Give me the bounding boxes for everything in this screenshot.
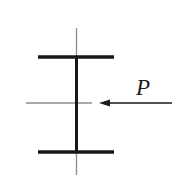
figure-canvas: P bbox=[0, 0, 181, 185]
force-label-P: P bbox=[135, 75, 150, 100]
figure-background bbox=[0, 0, 181, 185]
i-beam-load-diagram: P bbox=[0, 0, 181, 185]
